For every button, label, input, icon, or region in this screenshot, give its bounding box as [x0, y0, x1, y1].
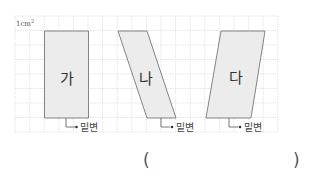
svg-text:밑변: 밑변: [80, 122, 98, 133]
svg-text:밑변: 밑변: [244, 122, 262, 133]
shape-ga: 가 밑변: [45, 31, 99, 133]
parallelogram-figure: 1cm2 가 밑변 나 밑변 다 밑변: [0, 0, 309, 184]
answer-close-paren: ): [293, 150, 300, 170]
svg-text:밑변: 밑변: [176, 122, 194, 133]
unit-label: 1cm2: [16, 18, 34, 28]
svg-text:가: 가: [60, 70, 74, 88]
svg-text:나: 나: [139, 70, 153, 88]
answer-open-paren: (: [143, 150, 150, 170]
svg-text:다: 다: [229, 69, 243, 87]
